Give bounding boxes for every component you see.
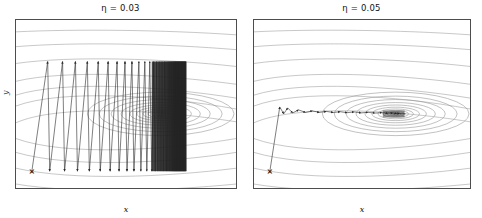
- axes-right: ×: [253, 19, 471, 189]
- panel-eta-003: η = 0.03: [0, 0, 241, 218]
- trajectory-dense-band: [152, 62, 187, 172]
- ylabel-left: y: [1, 90, 10, 95]
- xlabel-left: x: [15, 205, 237, 214]
- trajectory-dense-band: [383, 110, 405, 117]
- figure-canvas: η = 0.03: [0, 0, 482, 218]
- contour-plot-right: ×: [254, 20, 470, 188]
- panel-left-title: η = 0.03: [0, 3, 241, 13]
- axes-left: ×: [15, 19, 237, 189]
- start-marker-left: ×: [29, 167, 36, 176]
- panel-left-title-text: η = 0.03: [101, 3, 139, 13]
- contour-lines: [254, 30, 470, 188]
- xlabel-right: x: [253, 205, 471, 214]
- panel-eta-005: η = 0.05: [241, 0, 482, 218]
- start-marker-right: ×: [267, 167, 274, 176]
- contour-plot-left: ×: [16, 20, 236, 188]
- panel-right-title-text: η = 0.05: [342, 3, 380, 13]
- panel-right-title: η = 0.05: [241, 3, 482, 13]
